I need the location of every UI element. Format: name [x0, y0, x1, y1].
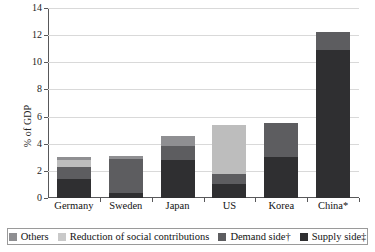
bar-group [264, 8, 298, 198]
legend-swatch-icon [58, 233, 66, 241]
legend-swatch-icon [300, 233, 308, 241]
legend-item: Demand side† [218, 231, 290, 242]
legend-item: Supply side‡ [300, 231, 367, 242]
bar-segment [109, 193, 143, 198]
y-tick-label: 10 [32, 57, 42, 67]
x-tick-mark [307, 198, 308, 202]
x-tick-label-japan: Japan [166, 200, 190, 212]
legend-label: Others [21, 231, 49, 242]
bar-stack [161, 8, 195, 198]
bar-segment [212, 184, 246, 198]
y-tick-label: 12 [32, 30, 42, 40]
bar-group [109, 8, 143, 198]
x-tick-mark [255, 198, 256, 202]
y-tick-label: 2 [37, 166, 42, 176]
y-tick-label: 0 [37, 193, 42, 203]
bar-stack [316, 8, 350, 198]
legend-item: Reduction of social contributions [58, 231, 210, 242]
legend-swatch-icon [218, 233, 226, 241]
bar-stack [109, 8, 143, 198]
bar-stack [57, 8, 91, 198]
legend-item: Others [9, 231, 49, 242]
x-tick-mark [152, 198, 153, 202]
bar-segment [316, 32, 350, 50]
bar-segment [57, 167, 91, 179]
bar-stack [212, 8, 246, 198]
bar-group [316, 8, 350, 198]
x-tick-label-china: China* [318, 200, 348, 212]
x-tick-mark [359, 198, 360, 202]
legend-label: Supply side‡ [312, 231, 367, 242]
y-tick-label: 6 [37, 112, 42, 122]
bar-group [212, 8, 246, 198]
legend-label: Reduction of social contributions [70, 231, 210, 242]
bar-segment [212, 125, 246, 174]
bar-segment [57, 157, 91, 160]
bar-segment [264, 157, 298, 198]
x-tick-label-germany: Germany [54, 200, 93, 212]
bar-segment [161, 146, 195, 160]
bar-group [57, 8, 91, 198]
bar-stack [264, 8, 298, 198]
bar-segment [57, 179, 91, 198]
y-axis-title: % of GDP [22, 105, 33, 147]
bar-segment [316, 50, 350, 198]
bar-segment [161, 136, 195, 147]
x-tick-label-korea: Korea [268, 200, 294, 212]
bar-series-layer [48, 8, 359, 198]
bar-segment [161, 160, 195, 198]
bar-segment [57, 160, 91, 167]
bar-segment [212, 174, 246, 185]
x-tick-mark [100, 198, 101, 202]
y-tick-mark [44, 198, 48, 199]
chart-legend: OthersReduction of social contributionsD… [7, 228, 368, 245]
bar-segment [264, 123, 298, 157]
bar-group [161, 8, 195, 198]
y-tick-label: 4 [37, 139, 42, 149]
legend-swatch-icon [9, 233, 17, 241]
plot-area: 02468101214 GermanySwedenJapanUSKoreaChi… [48, 8, 359, 198]
legend-label: Demand side† [230, 231, 290, 242]
bar-segment [109, 159, 143, 193]
bar-segment [109, 156, 143, 159]
x-tick-label-sweden: Sweden [109, 200, 142, 212]
y-tick-label: 14 [32, 3, 42, 13]
stacked-bar-chart: % of GDP 02468101214 GermanySwedenJapanU… [0, 0, 375, 252]
x-tick-label-us: US [223, 200, 236, 212]
y-tick-label: 8 [37, 84, 42, 94]
x-tick-mark [204, 198, 205, 202]
